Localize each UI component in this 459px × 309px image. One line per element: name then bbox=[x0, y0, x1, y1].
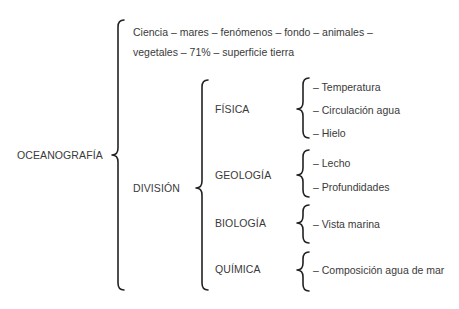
leaf-vista-marina: – Vista marina bbox=[313, 218, 380, 230]
node-geologia: GEOLOGÍA bbox=[215, 169, 271, 181]
node-biologia: BIOLOGÍA bbox=[215, 217, 266, 229]
leaf-lecho: – Lecho bbox=[313, 157, 350, 169]
leaf-circulacion-agua: – Circulación agua bbox=[313, 104, 400, 116]
brace-biologia bbox=[297, 205, 309, 243]
leaf-composicion-agua-de-mar: – Composición agua de mar bbox=[313, 264, 444, 276]
definition-line-2: vegetales – 71% – superficie tierra bbox=[133, 46, 294, 58]
node-fisica: FÍSICA bbox=[215, 103, 249, 115]
leaf-hielo: – Hielo bbox=[313, 127, 346, 139]
brace-quimica bbox=[297, 252, 309, 291]
node-oceanografia: OCEANOGRAFÍA bbox=[17, 149, 103, 161]
brace-oceanografia bbox=[112, 20, 124, 290]
node-division: DIVISIÓN bbox=[133, 182, 180, 194]
leaf-temperatura: – Temperatura bbox=[313, 81, 381, 93]
brace-division bbox=[196, 80, 208, 290]
brace-geologia bbox=[297, 150, 309, 197]
definition-line-1: Ciencia – mares – fenómenos – fondo – an… bbox=[133, 26, 373, 38]
node-quimica: QUÍMICA bbox=[215, 263, 261, 275]
brace-fisica bbox=[297, 78, 309, 138]
leaf-profundidades: – Profundidades bbox=[313, 181, 389, 193]
